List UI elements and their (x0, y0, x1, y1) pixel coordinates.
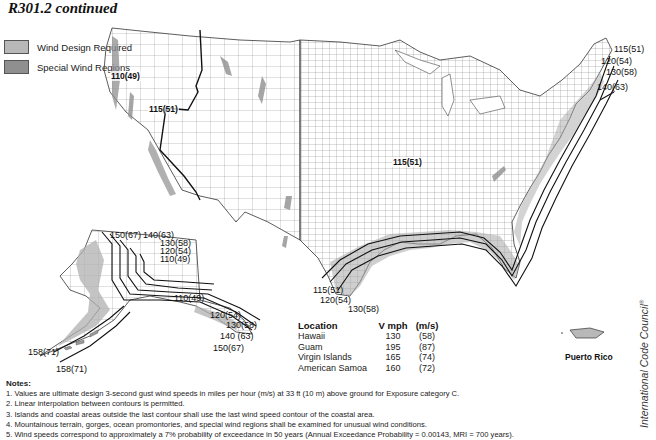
notes-section: Notes: 1. Values are ultimate design 3-s… (6, 379, 626, 440)
contour-label: 150(67) (110, 230, 141, 240)
table-row: Virgin Islands 165 (74) (298, 352, 442, 363)
note-item: 3. Islands and coastal areas outside the… (6, 410, 626, 420)
contour-label: 130(58) (348, 304, 379, 314)
registered-mark: ® (639, 300, 645, 304)
contour-label: 130(58) (606, 67, 637, 77)
mph-cell: 160 (374, 363, 412, 374)
table-header-row: Location V mph (m/s) (298, 320, 442, 331)
contour-label: 115(51) (614, 44, 644, 54)
table-row: American Samoa 160 (72) (298, 363, 442, 374)
contour-label: 140(63) (597, 82, 628, 92)
puerto-rico-label: Puerto Rico (565, 352, 613, 362)
note-item: 2. Linear interpolation between contours… (6, 399, 626, 409)
contour-label: 120(54) (320, 295, 351, 305)
note-item: 5. Wind speeds correspond to approximate… (6, 430, 626, 440)
puerto-rico-map (561, 328, 604, 338)
mph-cell: 195 (374, 342, 412, 353)
contour-label: 120(54) (210, 310, 241, 320)
column-header-location: Location (298, 320, 374, 331)
contour-label: 110(49) (174, 293, 204, 303)
location-cell: Virgin Islands (298, 352, 374, 363)
contour-label: 115(51) (392, 157, 423, 167)
location-cell: Hawaii (298, 331, 374, 342)
credit-text: International Code Council (638, 304, 650, 428)
column-header-m-s: (m/s) (412, 320, 442, 331)
ms-cell: (72) (412, 363, 442, 374)
table-row: Guam 195 (87) (298, 342, 442, 353)
mph-cell: 165 (374, 352, 412, 363)
ms-cell: (87) (412, 342, 442, 353)
contour-label: 115(51) (313, 285, 343, 295)
contour-label: 110(49) (160, 254, 190, 264)
notes-title: Notes: (6, 379, 626, 389)
note-item: 1. Values are ultimate design 3-second g… (6, 389, 626, 399)
contour-label: 150(67) (213, 343, 244, 353)
contour-label: 115(51) (148, 104, 179, 114)
copyright-credit: International Code Council® (638, 300, 650, 428)
contour-label: 140 (63) (220, 331, 254, 341)
table-row: Hawaii 130 (58) (298, 331, 442, 342)
contour-label: 110(49) (110, 71, 141, 81)
mph-cell: 130 (374, 331, 412, 342)
ms-cell: (58) (412, 331, 442, 342)
note-item: 4. Mountainous terrain, gorges, ocean pr… (6, 420, 626, 430)
column-header-v-mph: V mph (374, 320, 412, 331)
ms-cell: (74) (412, 352, 442, 363)
location-cell: Guam (298, 342, 374, 353)
contour-label: 158(71) (56, 364, 87, 374)
contour-label: 120(54) (601, 56, 632, 66)
contour-label: 158(71) (28, 347, 59, 357)
contour-label: 130(58) (226, 320, 257, 330)
location-wind-speed-table: Location V mph (m/s) Hawaii 130 (58) Gua… (298, 320, 442, 373)
location-cell: American Samoa (298, 363, 374, 374)
